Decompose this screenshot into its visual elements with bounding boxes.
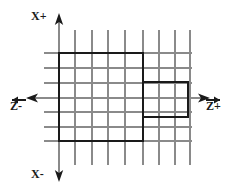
diagram-canvas: X+ X- Z- Z+ <box>0 0 230 195</box>
diagram-svg <box>0 0 230 195</box>
bold-outline-shapes <box>59 53 188 141</box>
axis-label-x-positive: X+ <box>31 10 47 22</box>
axis-label-z-positive: Z+ <box>206 100 221 112</box>
grid-horizontal-lines <box>44 53 192 141</box>
axis-label-z-negative: Z- <box>10 100 22 112</box>
axis-label-x-negative: X- <box>31 168 44 180</box>
axis-horizontal-z <box>26 94 210 103</box>
main-region-outline <box>59 53 143 141</box>
